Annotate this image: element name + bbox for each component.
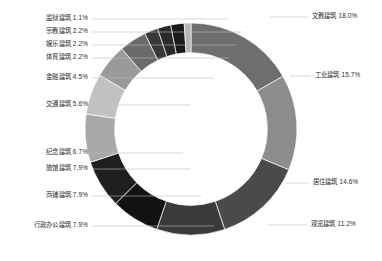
slice-label: 文教建筑 18.0% — [312, 11, 357, 20]
donut-chart: 监狱建筑 1.1%宗教建筑 2.2%娱乐建筑 2.2%体育建筑 2.2%金融建筑… — [0, 0, 382, 261]
slice-label: 宗教建筑 2.2% — [0, 26, 88, 35]
donut-slice[interactable] — [157, 201, 225, 235]
slice-label: 金融建筑 4.5% — [0, 72, 88, 81]
slice-label: 商铺建筑 7.9% — [0, 190, 88, 199]
slice-label: 观览建筑 11.2% — [311, 219, 356, 228]
donut-slice[interactable] — [215, 158, 289, 229]
slice-label: 行政办公建筑 7.9% — [0, 220, 88, 229]
donut-slices — [85, 23, 297, 235]
slice-label: 体育建筑 2.2% — [0, 52, 88, 61]
slice-label: 工业建筑 15.7% — [315, 70, 360, 79]
slice-label: 监狱建筑 1.1% — [0, 13, 88, 22]
slice-label: 居住建筑 14.6% — [313, 177, 358, 186]
donut-slice[interactable] — [257, 76, 297, 170]
slice-label: 娱乐建筑 2.2% — [0, 39, 88, 48]
slice-label: 交通建筑 5.6% — [0, 99, 88, 108]
slice-label: 纪念建筑 6.7% — [0, 147, 88, 156]
slice-label: 旅馆建筑 7.9% — [0, 163, 88, 172]
donut-slice[interactable] — [191, 23, 283, 91]
